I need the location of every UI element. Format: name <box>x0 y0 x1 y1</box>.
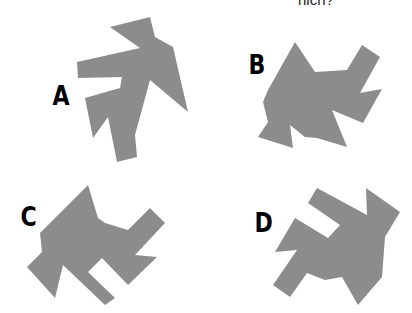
option-label-a: A <box>53 83 70 109</box>
option-label-b: B <box>248 52 265 78</box>
shape-c[interactable] <box>27 185 165 305</box>
shape-d[interactable] <box>273 188 400 305</box>
option-label-c: C <box>20 204 36 230</box>
shape-a[interactable] <box>77 17 188 162</box>
shape-b[interactable] <box>258 42 382 148</box>
shapes-canvas <box>0 0 412 313</box>
option-label-d: D <box>255 210 273 236</box>
